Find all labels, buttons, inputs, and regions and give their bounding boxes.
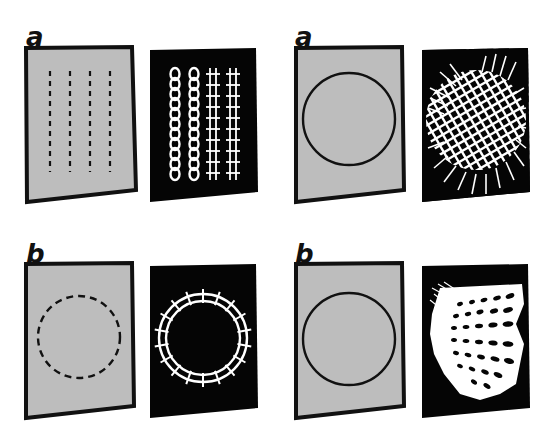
pattern-card-dashed-lines	[22, 44, 140, 206]
result-crosshatch-disc	[420, 48, 532, 204]
result-fan-leaf-grid	[420, 264, 532, 420]
pattern-card-dashed-circle	[22, 260, 140, 422]
pattern-card-solid-circle-b	[292, 260, 410, 422]
result-ring-with-ties	[148, 264, 260, 420]
pattern-card-solid-circle-a	[292, 44, 410, 206]
result-chain-ladder	[148, 48, 260, 204]
